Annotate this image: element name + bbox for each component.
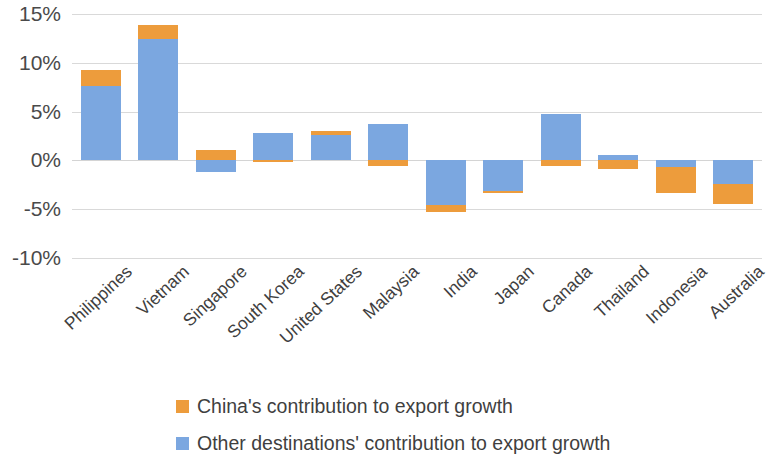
y-axis-tick-label: 10% (0, 52, 61, 73)
bar-segment-china (196, 150, 236, 161)
bar-group[interactable] (253, 14, 293, 258)
bar-segment-china (253, 160, 293, 162)
bar-segment-china (368, 160, 408, 166)
legend-label: China's contribution to export growth (197, 395, 513, 417)
y-axis-tick-label: -10% (0, 247, 61, 268)
bar-segment-china (81, 70, 121, 87)
bar-group[interactable] (426, 14, 466, 258)
legend-item[interactable]: China's contribution to export growth (176, 395, 513, 417)
x-axis-label-indonesia: Indonesia (642, 262, 710, 328)
bar-segment-other-destinations (426, 160, 466, 205)
bar-segment-other-destinations (81, 86, 121, 160)
bar-segment-china (598, 160, 638, 169)
bar-segment-china (713, 184, 753, 204)
gridline-neg10pct (72, 258, 762, 259)
legend-item[interactable]: Other destinations' contribution to expo… (176, 432, 610, 454)
bar-segment-china (656, 167, 696, 192)
bar-segment-other-destinations (541, 114, 581, 161)
legend-label: Other destinations' contribution to expo… (197, 432, 610, 454)
legend-swatch-icon (176, 437, 189, 450)
export-growth-contribution-chart: 15%10%5%0%-5%-10% PhilippinesVietnamSing… (0, 0, 773, 464)
x-axis-label-india: India (440, 262, 481, 302)
y-axis-tick-label: 0% (0, 149, 61, 170)
bar-group[interactable] (196, 14, 236, 258)
x-axis-category-labels: PhilippinesVietnamSingaporeSouth KoreaUn… (72, 262, 762, 370)
plot-area (72, 14, 762, 258)
bar-segment-other-destinations (196, 160, 236, 172)
x-axis-label-canada: Canada (538, 262, 596, 318)
bar-group[interactable] (713, 14, 753, 258)
bar-segment-other-destinations (311, 135, 351, 160)
bar-group[interactable] (368, 14, 408, 258)
bar-group[interactable] (598, 14, 638, 258)
bar-segment-china (311, 131, 351, 135)
bar-segment-other-destinations (713, 160, 753, 183)
x-axis-label-japan: Japan (490, 262, 538, 308)
x-axis-label-australia: Australia (705, 262, 768, 322)
x-axis-label-philippines: Philippines (61, 262, 136, 334)
bar-segment-china (483, 191, 523, 193)
y-axis-tick-label: 15% (0, 3, 61, 24)
bar-group[interactable] (541, 14, 581, 258)
legend-swatch-icon (176, 400, 189, 413)
bar-group[interactable] (81, 14, 121, 258)
bar-group[interactable] (483, 14, 523, 258)
y-axis-tick-label: -5% (0, 198, 61, 219)
bar-group[interactable] (138, 14, 178, 258)
bar-segment-china (426, 205, 466, 212)
bar-segment-other-destinations (656, 160, 696, 167)
bar-segment-other-destinations (368, 124, 408, 160)
bar-segment-other-destinations (483, 160, 523, 190)
bar-segment-china (138, 25, 178, 40)
bar-group[interactable] (311, 14, 351, 258)
x-axis-label-malaysia: Malaysia (360, 262, 423, 323)
bar-segment-other-destinations (138, 39, 178, 160)
y-axis-tick-label: 5% (0, 101, 61, 122)
bars-layer (72, 14, 762, 258)
bar-group[interactable] (656, 14, 696, 258)
bar-segment-other-destinations (253, 133, 293, 160)
bar-segment-china (541, 160, 581, 166)
